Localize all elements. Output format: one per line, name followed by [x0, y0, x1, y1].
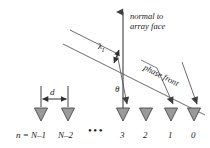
- element-label-3: 3: [120, 130, 125, 140]
- normal-label-line-2: array face: [130, 22, 165, 31]
- element-label-0: 0: [191, 130, 196, 140]
- wavelength-subscript: I: [102, 47, 104, 53]
- theta-angle-label: θ: [115, 85, 119, 94]
- element-label-N-1: N–1: [31, 130, 46, 140]
- wavelength-label: λI: [98, 42, 104, 53]
- ellipsis-label: •••: [88, 125, 104, 136]
- diagram-canvas: [0, 0, 210, 148]
- element-label-n-eq: n =: [16, 130, 29, 140]
- array-phase-front-figure: normal to array face phase front λI θ d …: [0, 0, 210, 148]
- element-spacing-label: d: [50, 88, 55, 97]
- ray-to-element-0: [182, 62, 197, 104]
- element-label-1: 1: [168, 130, 173, 140]
- array-element-markers: [35, 108, 201, 121]
- normal-label-line-1: normal to: [130, 12, 165, 21]
- normal-to-array-face-label: normal to array face: [130, 12, 165, 31]
- ray-to-element-3: [117, 54, 127, 105]
- element-label-N-2: N–2: [58, 130, 73, 140]
- wavefront-line-upper: [70, 30, 117, 54]
- element-label-2: 2: [143, 130, 148, 140]
